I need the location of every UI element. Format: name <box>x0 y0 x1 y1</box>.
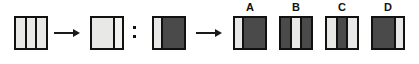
option-label-d: D <box>371 2 405 13</box>
option-label-b: B <box>279 2 313 13</box>
tile-band-light <box>327 18 336 48</box>
transformation-arrow-2 <box>196 29 222 37</box>
target-left-tile <box>152 16 186 50</box>
colon-dot-bottom <box>133 35 136 38</box>
option-label-c: C <box>325 2 359 13</box>
tile-band-light <box>37 18 46 48</box>
tile-band-light <box>154 18 161 48</box>
arrow-shaft <box>54 32 74 34</box>
tile-band-light <box>348 18 357 48</box>
tile-band-light <box>292 18 300 48</box>
tile-band-light <box>27 18 35 48</box>
colon-dot-top <box>133 26 136 29</box>
tile-band-light <box>92 18 113 48</box>
tile-band-dark <box>373 18 394 48</box>
tile-band-light <box>16 18 25 48</box>
tile-band-dark <box>338 18 346 48</box>
source-left-tile <box>14 16 48 50</box>
tile-band-light <box>235 18 242 48</box>
tile-band-dark <box>244 18 265 48</box>
arrow-head <box>73 29 80 37</box>
tile-band-dark <box>163 18 184 48</box>
source-right-tile <box>90 16 124 50</box>
option-d[interactable] <box>371 16 405 50</box>
analogy-figure: ABCD <box>0 0 419 64</box>
option-label-a: A <box>233 2 267 13</box>
option-a[interactable] <box>233 16 267 50</box>
option-c[interactable] <box>325 16 359 50</box>
tile-band-lighter <box>115 18 122 48</box>
arrow-shaft <box>196 32 216 34</box>
ratio-colon-icon <box>133 26 136 38</box>
tile-band-dark <box>302 18 311 48</box>
tile-band-light <box>396 18 403 48</box>
option-b[interactable] <box>279 16 313 50</box>
transformation-arrow-1 <box>54 29 80 37</box>
tile-band-dark <box>281 18 290 48</box>
arrow-head <box>215 29 222 37</box>
